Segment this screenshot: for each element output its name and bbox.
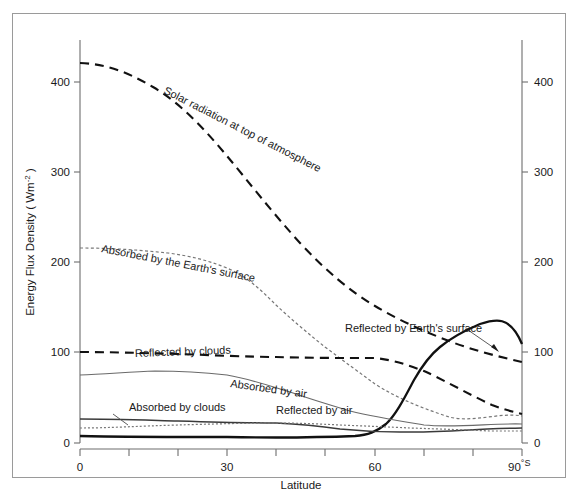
left-tick-label-400: 400	[51, 76, 70, 88]
series-label-reflected-earth-surface: Reflected by Earth's surface	[345, 322, 482, 334]
x-tick-label-90: 90°S	[508, 458, 530, 473]
x-tick-label-90-num: 90	[508, 461, 521, 473]
x-tick-label-90-suffix: °S	[521, 458, 531, 468]
series-label-reflected-by-clouds: Reflected by clouds	[135, 344, 232, 359]
y-axis-title-main: Energy Flux Density ( Wm	[24, 182, 36, 316]
x-tick-label-30: 30	[221, 461, 234, 473]
x-tick-label-0: 0	[77, 461, 83, 473]
right-tick-label-100: 100	[534, 346, 553, 358]
energy-flux-chart: 0 100 200 300 400 0 100 200 300 400 0 30…	[0, 0, 579, 495]
left-tick-label-100: 100	[51, 346, 70, 358]
arrowhead-reflected-earth-surface	[491, 344, 499, 352]
y-axis-title: Energy Flux Density ( Wm-2 )	[23, 168, 37, 316]
right-y-ticks: 0 100 200 300 400	[522, 76, 553, 449]
series-labels: Solar radiation at top of atmosphere Abs…	[101, 84, 483, 416]
series-label-absorbed-by-air: Absorbed by air	[230, 377, 308, 400]
x-tick-label-60: 60	[369, 461, 382, 473]
y-axis-title-end: )	[24, 168, 36, 175]
left-tick-label-300: 300	[51, 166, 70, 178]
x-axis-title: Latitude	[281, 479, 322, 491]
right-tick-label-0: 0	[534, 437, 540, 449]
series-label-solar-radiation: Solar radiation at top of atmosphere	[162, 84, 323, 174]
left-y-ticks: 0 100 200 300 400	[51, 76, 80, 449]
left-tick-label-200: 200	[51, 256, 70, 268]
series-label-absorbed-by-clouds: Absorbed by clouds	[129, 401, 226, 413]
series-label-absorbed-earth-surface: Absorbed by the Earth's surface	[101, 242, 257, 284]
series-label-reflected-by-air: Reflected by air	[276, 404, 353, 416]
right-tick-label-300: 300	[534, 166, 553, 178]
x-ticks: 0 30 60 90°S	[77, 449, 531, 473]
right-tick-label-400: 400	[534, 76, 553, 88]
right-tick-label-200: 200	[534, 256, 553, 268]
left-tick-label-0: 0	[64, 437, 70, 449]
curve-solar-radiation	[80, 63, 522, 362]
